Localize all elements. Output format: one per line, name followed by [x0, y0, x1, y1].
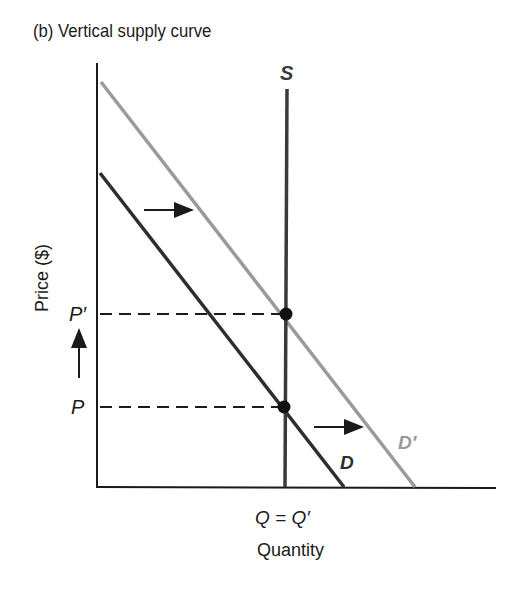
x-axis — [96, 487, 496, 488]
demand-curve — [100, 173, 344, 487]
equilibrium-dot — [278, 401, 291, 414]
supply-curve — [285, 89, 287, 487]
price-new-label: P′ — [69, 303, 87, 325]
demand-new-curve — [101, 82, 415, 487]
demand-new-label: D′ — [398, 432, 418, 453]
price-label: P — [71, 396, 85, 418]
x-axis-label: Quantity — [257, 540, 324, 560]
equilibrium-new-dot — [280, 308, 293, 321]
demand-label: D — [340, 452, 354, 473]
supply-demand-diagram: S D D′ P′ P Q = Q′ Quantity Price ($) — [0, 0, 523, 589]
y-axis-label: Price ($) — [32, 244, 52, 312]
supply-label: S — [280, 62, 294, 84]
quantity-eq-label: Q = Q′ — [255, 507, 311, 528]
